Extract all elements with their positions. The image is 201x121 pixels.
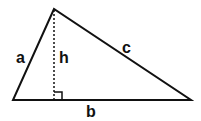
label-side-b: b — [86, 103, 96, 120]
triangle-diagram: a h c b — [0, 0, 201, 121]
label-height: h — [59, 49, 69, 66]
label-side-a: a — [16, 49, 25, 66]
label-side-c: c — [122, 39, 131, 56]
triangle — [13, 9, 191, 100]
right-angle-marker — [54, 92, 62, 100]
